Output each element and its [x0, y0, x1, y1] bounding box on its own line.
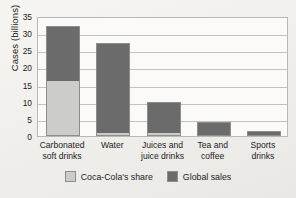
bar-segment[interactable]: [46, 26, 80, 81]
category-label-line: juice drinks: [137, 151, 187, 162]
bar-segment[interactable]: [147, 133, 181, 136]
category-label-line: Carbonated: [37, 140, 87, 151]
legend-swatch: [65, 171, 76, 182]
category-label-line: Sports: [238, 140, 288, 151]
y-axis-tick-label: 30: [8, 30, 32, 38]
bar-segment[interactable]: [197, 122, 231, 136]
legend-item[interactable]: Coca-Cola's share: [65, 171, 153, 182]
x-axis-category-label: Carbonatedsoft drinks: [37, 140, 87, 161]
y-axis-tick-label: 10: [8, 99, 32, 107]
bar-group[interactable]: [96, 16, 130, 136]
y-axis-tick-label: 15: [8, 82, 32, 90]
x-axis-category-label: Tea andcoffee: [188, 140, 238, 161]
y-axis-tick-label: 20: [8, 64, 32, 72]
bar-segment[interactable]: [247, 131, 281, 136]
x-axis-category-label: Juices andjuice drinks: [137, 140, 187, 161]
bar-segment[interactable]: [96, 133, 130, 136]
bar-segment[interactable]: [96, 43, 130, 132]
y-axis-tick-label: 25: [8, 47, 32, 55]
bar-group[interactable]: [147, 16, 181, 136]
y-axis-tick-label: 5: [8, 116, 32, 124]
bar-segment[interactable]: [46, 81, 80, 136]
bar-group[interactable]: [247, 16, 281, 136]
bar-group[interactable]: [46, 16, 80, 136]
chart-figure: Cases (billions) 05101520253035 Carbonat…: [0, 0, 296, 198]
bar-segment[interactable]: [147, 102, 181, 133]
x-axis-category-labels: Carbonatedsoft drinksWaterJuices andjuic…: [37, 140, 288, 166]
x-axis-category-label: Water: [87, 140, 137, 151]
legend-swatch: [167, 171, 178, 182]
plot-area: [37, 17, 288, 137]
bar-series-container: [38, 18, 287, 136]
category-label-line: drinks: [238, 151, 288, 162]
category-label-line: coffee: [188, 151, 238, 162]
category-label-line: Water: [87, 140, 137, 151]
chart-legend: Coca-Cola's shareGlobal sales: [0, 171, 296, 182]
bar-group[interactable]: [197, 16, 231, 136]
y-axis-tick-label: 0: [8, 133, 32, 141]
category-label-line: soft drinks: [37, 151, 87, 162]
category-label-line: Juices and: [137, 140, 187, 151]
legend-item[interactable]: Global sales: [167, 171, 231, 182]
legend-label: Coca-Cola's share: [81, 172, 153, 182]
category-label-line: Tea and: [188, 140, 238, 151]
legend-label: Global sales: [183, 172, 231, 182]
y-axis-tick-label: 35: [8, 13, 32, 21]
x-axis-category-label: Sportsdrinks: [238, 140, 288, 161]
